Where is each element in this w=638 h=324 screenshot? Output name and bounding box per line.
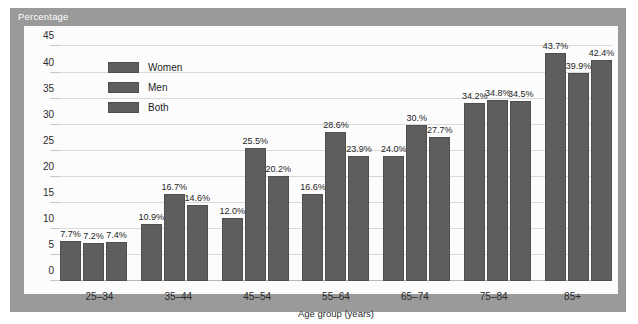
bar-value-label: 7.7% xyxy=(60,230,81,239)
y-axis-tick-mark xyxy=(50,228,60,229)
bar[interactable] xyxy=(325,132,346,281)
bar-value-label: 20.2% xyxy=(265,165,291,174)
bar[interactable] xyxy=(487,100,508,281)
y-axis-tick-mark xyxy=(50,98,60,99)
bar[interactable] xyxy=(245,148,266,281)
bar-slot: 7.2% xyxy=(83,36,104,281)
bar-value-label: 34.8% xyxy=(485,89,511,98)
legend-item[interactable]: Men xyxy=(108,82,182,93)
bar-value-label: 25.5% xyxy=(242,137,268,146)
y-axis-tick-label: 15 xyxy=(43,186,54,197)
bar-group: 24.0%30.%27.7% xyxy=(383,36,450,281)
bar[interactable] xyxy=(464,103,485,281)
bar[interactable] xyxy=(268,176,289,281)
bar-slot: 30.% xyxy=(406,36,427,281)
bar[interactable] xyxy=(187,205,208,281)
bar-slot: 16.6% xyxy=(302,36,323,281)
bar-value-label: 16.6% xyxy=(300,183,326,192)
legend-label: Women xyxy=(148,62,182,73)
bar[interactable] xyxy=(106,242,127,281)
bar-value-label: 23.9% xyxy=(346,145,372,154)
bar-value-label: 30.% xyxy=(407,114,428,123)
bar[interactable] xyxy=(510,101,531,281)
legend-swatch-icon xyxy=(108,82,139,93)
x-axis-tick-label: 55–64 xyxy=(297,291,376,302)
bar-slot: 34.2% xyxy=(464,36,485,281)
bar[interactable] xyxy=(545,53,566,281)
bar-slot: 43.7% xyxy=(545,36,566,281)
legend-swatch-icon xyxy=(108,62,139,73)
bar-group: 12.0%25.5%20.2% xyxy=(222,36,289,281)
y-axis-tick-mark xyxy=(50,176,60,177)
legend-swatch-icon xyxy=(108,102,139,113)
y-axis-tick-label: 20 xyxy=(43,160,54,171)
y-axis-tick-mark xyxy=(50,150,60,151)
bar-slot: 34.8% xyxy=(487,36,508,281)
bar[interactable] xyxy=(383,156,404,281)
bar-group: 43.7%39.9%42.4% xyxy=(545,36,612,281)
bar-slot: 20.2% xyxy=(268,36,289,281)
legend-label: Men xyxy=(148,82,167,93)
bar[interactable] xyxy=(164,194,185,281)
bar-value-label: 39.9% xyxy=(566,62,592,71)
bar-group: 34.2%34.8%34.5% xyxy=(464,36,531,281)
y-axis-tick-label: 25 xyxy=(43,134,54,145)
y-axis-tick-label: 35 xyxy=(43,82,54,93)
bar-slot: 25.5% xyxy=(245,36,266,281)
y-axis-tick-label: 45 xyxy=(43,30,54,41)
bar-value-label: 42.4% xyxy=(589,49,615,58)
bar[interactable] xyxy=(568,73,589,281)
bar-slot: 14.6% xyxy=(187,36,208,281)
y-axis-tick-label: 0 xyxy=(48,265,54,276)
y-axis-tick-label: 30 xyxy=(43,108,54,119)
bar-value-label: 27.7% xyxy=(427,126,453,135)
y-axis-tick-label: 5 xyxy=(48,238,54,249)
bar-group: 16.6%28.6%23.9% xyxy=(302,36,369,281)
bar-slot: 12.0% xyxy=(222,36,243,281)
y-axis-tick-label: 40 xyxy=(43,56,54,67)
x-axis-tick-label: 85+ xyxy=(533,291,612,302)
bar-value-label: 7.4% xyxy=(106,231,127,240)
bar-value-label: 7.2% xyxy=(83,232,104,241)
x-axis-tick-labels: 25–3435–4445–5455–6465–7475–8485+ xyxy=(60,291,612,302)
bar-value-label: 12.0% xyxy=(219,207,245,216)
y-axis-tick-mark xyxy=(50,254,60,255)
legend-item[interactable]: Women xyxy=(108,62,182,73)
bar[interactable] xyxy=(60,241,81,281)
bar-slot: 28.6% xyxy=(325,36,346,281)
bar[interactable] xyxy=(141,224,162,281)
x-axis-tick-label: 75–84 xyxy=(454,291,533,302)
y-axis-tick-mark xyxy=(50,124,60,125)
y-axis-tick-mark xyxy=(50,202,60,203)
bar[interactable] xyxy=(591,60,612,281)
header-band: Percentage xyxy=(10,8,626,26)
page-title: Percentage xyxy=(18,11,69,22)
y-axis-tick-mark xyxy=(50,72,60,73)
x-axis-tick-label: 65–74 xyxy=(375,291,454,302)
bar[interactable] xyxy=(222,218,243,281)
bar-slot: 23.9% xyxy=(348,36,369,281)
bar-value-label: 34.5% xyxy=(508,90,534,99)
bar-slot: 34.5% xyxy=(510,36,531,281)
y-axis-tick-mark xyxy=(50,280,60,281)
y-axis-tick-label: 10 xyxy=(43,212,54,223)
bar-value-label: 28.6% xyxy=(323,121,349,130)
bar[interactable] xyxy=(348,156,369,281)
x-axis-tick-label: 45–54 xyxy=(218,291,297,302)
bar-slot: 24.0% xyxy=(383,36,404,281)
bar[interactable] xyxy=(406,125,427,281)
x-axis-tick-label: 35–44 xyxy=(139,291,218,302)
legend-item[interactable]: Both xyxy=(108,102,182,113)
x-axis-tick-label: 25–34 xyxy=(60,291,139,302)
bar-value-label: 16.7% xyxy=(162,183,188,192)
bar[interactable] xyxy=(302,194,323,281)
bar[interactable] xyxy=(83,243,104,281)
bar-slot: 27.7% xyxy=(429,36,450,281)
bar-slot: 42.4% xyxy=(591,36,612,281)
plot-canvas: 051015202530354045 7.7%7.2%7.4%10.9%16.7… xyxy=(24,26,618,294)
chart-figure: Percentage 051015202530354045 7.7%7.2%7.… xyxy=(0,0,638,324)
bar-slot: 7.7% xyxy=(60,36,81,281)
bar-value-label: 14.6% xyxy=(185,194,211,203)
bar-value-label: 10.9% xyxy=(139,213,165,222)
bar[interactable] xyxy=(429,137,450,281)
